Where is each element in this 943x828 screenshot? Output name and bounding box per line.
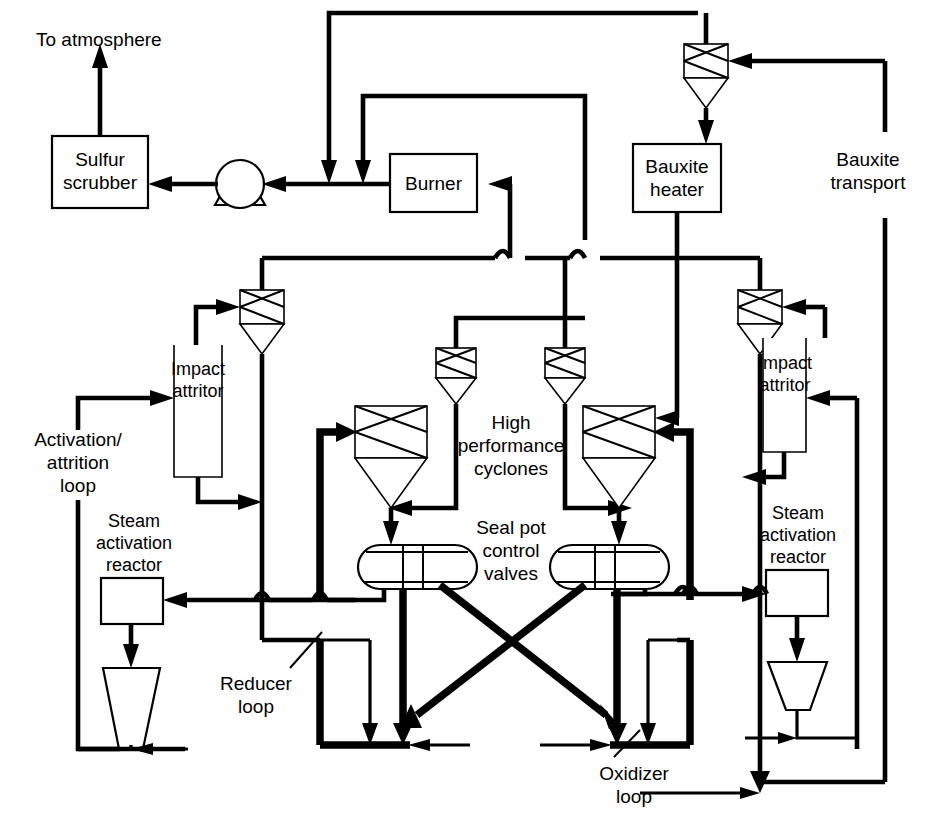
hopper-right-outlet bbox=[797, 710, 857, 738]
cyclone-center-left bbox=[436, 348, 476, 404]
oxidizer-loop-feed-arrow bbox=[540, 739, 612, 751]
oxidizer-loop-inner-return bbox=[640, 640, 690, 745]
cyclone-top-right-solids-down bbox=[698, 108, 714, 144]
hopper-left bbox=[103, 668, 160, 749]
left-lower-vertical-a bbox=[262, 600, 320, 640]
label-impact-attritor-left: Impact attritor bbox=[148, 358, 248, 402]
blower-symbol bbox=[215, 160, 265, 208]
reducer-cyclone-downcomer bbox=[383, 508, 399, 545]
label-oxidizer-loop: Oxidizer loop bbox=[570, 762, 698, 808]
label-bauxite-heater: Bauxite heater bbox=[633, 155, 721, 201]
reducer-loop-feed-arrow bbox=[408, 739, 470, 751]
cyclone-left-upper bbox=[240, 290, 284, 354]
cyclone-oxidizer bbox=[583, 406, 655, 508]
label-bauxite-transport: Bauxite transport bbox=[793, 148, 943, 194]
label-activation-attrition-loop: Activation/ attrition loop bbox=[4, 428, 152, 497]
to-atmosphere-arrow bbox=[92, 44, 108, 136]
label-steam-activation-reactor-right: Steam activation reactor bbox=[736, 502, 860, 568]
crossover-left-to-right bbox=[440, 585, 622, 729]
hopper-right bbox=[768, 662, 827, 710]
attritor-left-to-cyclone bbox=[196, 299, 240, 345]
steam-activation-reactor-left-box bbox=[101, 578, 163, 624]
attritor-right-outlet bbox=[742, 452, 784, 485]
label-reducer-loop: Reducer loop bbox=[196, 672, 316, 718]
attritor-left-outlet bbox=[198, 477, 262, 510]
label-seal-pot-control-valves: Seal pot control valves bbox=[443, 516, 579, 585]
label-sulfur-scrubber: Sulfur scrubber bbox=[52, 148, 148, 194]
label-steam-activation-reactor-left: Steam activation reactor bbox=[72, 510, 196, 576]
steam-activation-reactor-right-box bbox=[766, 570, 828, 616]
label-high-performance-cyclones: High performance cyclones bbox=[433, 411, 589, 480]
burner-inlet-line bbox=[488, 176, 512, 258]
blower-to-scrubber-line bbox=[148, 176, 218, 192]
process-flow-diagram: To atmosphere Sulfur scrubber Burner Bau… bbox=[0, 0, 943, 828]
seal-pot-left-recycle bbox=[355, 589, 384, 600]
crossover-right-to-left bbox=[400, 585, 585, 728]
reactor-left-to-hopper bbox=[123, 624, 139, 668]
cyclone-top-right bbox=[684, 44, 728, 108]
hopper-right-feed-arrow bbox=[745, 732, 797, 744]
attritor-right-to-cyclone bbox=[782, 299, 825, 338]
reducer-riser-inlet bbox=[320, 422, 357, 600]
bauxite-heater-discharge bbox=[655, 212, 679, 426]
label-to-atmosphere: To atmosphere bbox=[36, 28, 206, 51]
label-impact-attritor-right: Impact attritor bbox=[735, 352, 835, 396]
bauxite-transport-to-cyclone bbox=[728, 53, 885, 132]
cyclone-reducer bbox=[355, 406, 427, 508]
burner-to-blower-line bbox=[262, 176, 390, 192]
reducer-loop-inner-return bbox=[320, 640, 378, 745]
reactor-right-to-hopper bbox=[789, 616, 805, 662]
label-burner: Burner bbox=[390, 172, 477, 195]
cyclone-center-right bbox=[545, 348, 585, 404]
